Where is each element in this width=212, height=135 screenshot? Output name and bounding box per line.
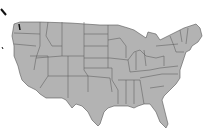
corner-dot <box>2 47 3 49</box>
us-states-map <box>0 0 212 135</box>
puget-sound <box>19 24 20 30</box>
us-outline <box>12 22 202 128</box>
corner-mark <box>1 9 6 15</box>
